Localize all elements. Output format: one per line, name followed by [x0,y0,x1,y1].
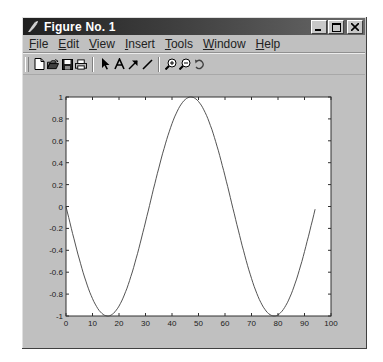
y-tick-label: -1 [56,312,64,321]
x-tick-label: 60 [221,319,230,328]
x-tick-label: 50 [194,319,203,328]
x-tick-label: 100 [324,319,338,328]
y-tick-label: 1 [59,93,64,102]
x-tick-label: 10 [88,319,97,328]
x-tick-label: 40 [168,319,177,328]
x-tick-label: 70 [247,319,256,328]
x-tick-label: 90 [300,319,309,328]
y-tick-label: 0.2 [52,181,64,190]
x-tick-label: 20 [115,319,124,328]
plot-canvas: 0102030405060708090100-1-0.8-0.6-0.4-0.2… [0,0,383,362]
y-tick-label: -0.8 [49,290,63,299]
y-tick-label: -0.4 [49,246,63,255]
x-tick-label: 0 [64,319,69,328]
x-tick-label: 30 [141,319,150,328]
y-tick-label: 0.6 [52,137,64,146]
y-tick-label: -0.2 [49,224,63,233]
y-tick-label: 0.8 [52,115,64,124]
y-tick-label: 0.4 [52,159,64,168]
axes-box [66,97,331,316]
y-tick-label: -0.6 [49,268,63,277]
x-tick-label: 80 [274,319,283,328]
y-tick-label: 0 [59,203,64,212]
